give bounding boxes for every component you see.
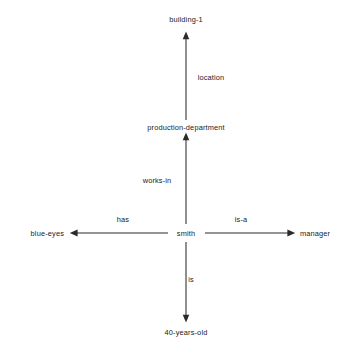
arrowhead-left-has [70, 230, 78, 237]
node-production-department: production-department [147, 123, 224, 132]
node-smith: smith [177, 229, 195, 238]
edge-label-works-in: works-in [143, 176, 172, 185]
edge-works-in [183, 133, 190, 225]
edge-label-has: has [117, 215, 129, 224]
arrowhead-right-is-a [287, 230, 295, 237]
node-blue-eyes: blue-eyes [31, 229, 64, 238]
node-40-years-old: 40-years-old [165, 328, 208, 337]
node-building-1: building-1 [169, 15, 203, 24]
arrowhead-up-works-in [183, 133, 190, 141]
edge-label-is: is [188, 275, 194, 284]
node-manager: manager [300, 229, 330, 238]
edge-is-a [205, 230, 295, 237]
edge-label-location: location [198, 73, 225, 82]
arrowhead-down-is [183, 315, 190, 323]
diagram-canvas: building-1 production-department blue-ey… [0, 0, 356, 356]
edge-has [70, 230, 168, 237]
arrowhead-up-location [183, 32, 190, 40]
edge-label-is-a: is-a [235, 215, 248, 224]
diagram-edges-layer [0, 0, 356, 356]
edge-location [183, 32, 190, 121]
